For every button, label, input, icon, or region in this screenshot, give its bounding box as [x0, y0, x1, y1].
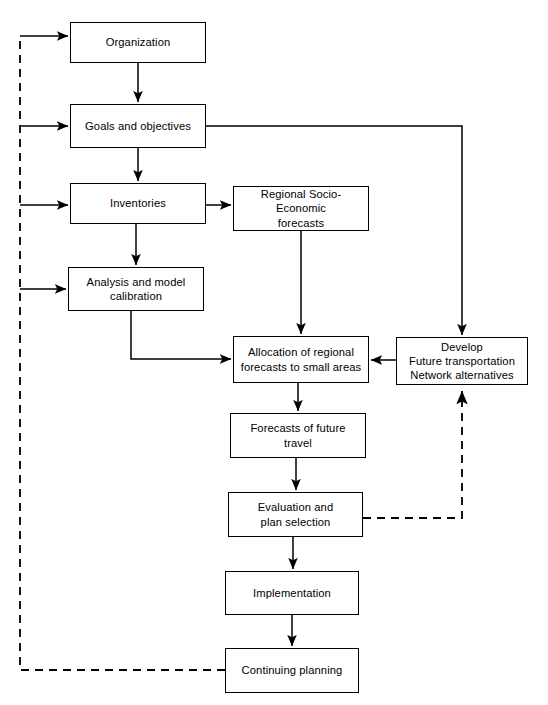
node-develop-label: Develop Future transportation Network al… [405, 340, 519, 383]
node-regional-forecasts[interactable]: Regional Socio-Economic forecasts [233, 186, 369, 231]
node-forecasts-travel-label: Forecasts of future travel [246, 421, 349, 450]
node-organization-label: Organization [102, 35, 175, 49]
node-goals[interactable]: Goals and objectives [70, 104, 206, 148]
node-continuing-planning-label: Continuing planning [238, 663, 347, 677]
node-continuing-planning[interactable]: Continuing planning [225, 648, 359, 693]
node-regional-forecasts-label: Regional Socio-Economic forecasts [234, 187, 368, 230]
node-analysis-label: Analysis and model calibration [83, 275, 190, 304]
flowchart-canvas: Organization Goals and objectives Invent… [0, 0, 548, 705]
node-allocation-label: Allocation of regional forecasts to smal… [237, 345, 366, 374]
edge-evaluation-to-develop-feedback [363, 391, 462, 518]
node-forecasts-travel[interactable]: Forecasts of future travel [230, 413, 366, 458]
node-develop[interactable]: Develop Future transportation Network al… [396, 337, 528, 385]
node-allocation[interactable]: Allocation of regional forecasts to smal… [233, 336, 369, 383]
node-inventories-label: Inventories [106, 196, 170, 210]
node-evaluation-label: Evaluation and plan selection [254, 500, 337, 529]
node-inventories[interactable]: Inventories [70, 183, 206, 224]
edge-analysis-to-allocation [131, 311, 231, 359]
node-organization[interactable]: Organization [70, 22, 206, 63]
node-evaluation[interactable]: Evaluation and plan selection [228, 492, 363, 537]
node-analysis[interactable]: Analysis and model calibration [68, 267, 204, 311]
node-goals-label: Goals and objectives [81, 119, 195, 133]
node-implementation[interactable]: Implementation [225, 571, 359, 615]
node-implementation-label: Implementation [249, 586, 335, 600]
